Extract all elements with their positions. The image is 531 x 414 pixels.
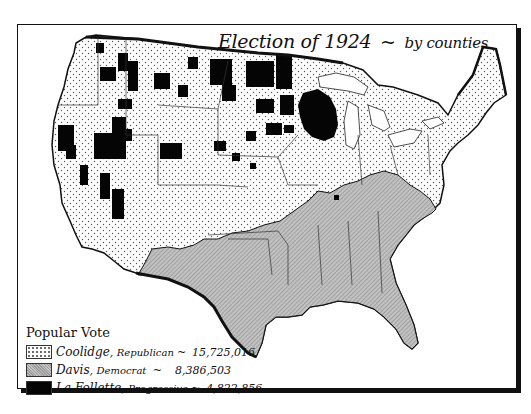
black-swatch-icon [26, 381, 52, 395]
legend-votes: 8,386,503 [175, 364, 231, 377]
legend-candidate: La Follette [56, 381, 121, 395]
legend: Popular Vote Coolidge, Republican ~ 15,7… [26, 325, 262, 397]
legend-party: Republican [117, 347, 174, 358]
legend-title: Popular Vote [26, 325, 262, 340]
legend-item-lafollette: La Follette, Progressive ~ 4,822,856 [26, 379, 262, 397]
title-main: Election of 1924 [218, 30, 371, 52]
legend-votes: 15,725,016 [192, 346, 255, 359]
title-separator: ~ [380, 30, 396, 52]
legend-item-coolidge: Coolidge, Republican ~ 15,725,016 [26, 343, 262, 361]
dotted-swatch-icon [26, 345, 52, 359]
title-subtitle: by counties [404, 34, 488, 52]
legend-dash: ~ [177, 346, 186, 359]
legend-item-davis: Davis, Democrat ~ 8,386,503 [26, 361, 262, 379]
map-title: Election of 1924 ~ by counties [218, 30, 488, 52]
legend-dash: ~ [191, 382, 200, 395]
legend-dash: ~ [149, 364, 169, 377]
legend-party: Progressive [128, 383, 188, 394]
legend-candidate: Coolidge [56, 345, 110, 359]
legend-candidate: Davis [56, 363, 90, 377]
legend-votes: 4,822,856 [206, 382, 262, 395]
legend-party: Democrat [97, 365, 147, 376]
map-frame: Election of 1924 ~ by counties Popular V… [17, 24, 517, 389]
hatched-swatch-icon [26, 363, 52, 377]
